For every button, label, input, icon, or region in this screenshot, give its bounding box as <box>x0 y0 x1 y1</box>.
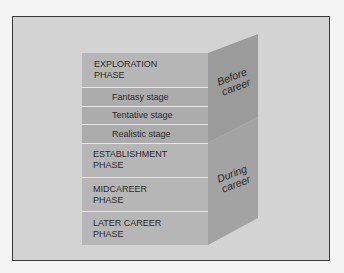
later-career-phase-row: LATER CAREER PHASE <box>82 212 208 245</box>
exploration-phase-row: EXPLORATION PHASE <box>82 53 208 87</box>
establishment-phase-label-line2: PHASE <box>93 160 208 171</box>
career-phases-front-face: EXPLORATION PHASE Fantasy stage Tentativ… <box>82 53 208 245</box>
tentative-stage-row: Tentative stage <box>82 107 208 124</box>
exploration-phase-label-line2: PHASE <box>94 70 208 81</box>
establishment-phase-row: ESTABLISHMENT PHASE <box>82 144 208 177</box>
exploration-phase-label-line1: EXPLORATION <box>94 59 208 70</box>
later-career-phase-label-line2: PHASE <box>93 229 208 240</box>
later-career-phase-label-line1: LATER CAREER <box>93 218 208 229</box>
midcareer-phase-row: MIDCAREER PHASE <box>82 178 208 211</box>
realistic-stage-row: Realistic stage <box>82 125 208 143</box>
realistic-stage-label: Realistic stage <box>112 129 208 140</box>
fantasy-stage-row: Fantasy stage <box>82 88 208 106</box>
midcareer-phase-label-line2: PHASE <box>93 195 208 206</box>
midcareer-phase-label-line1: MIDCAREER <box>93 184 208 195</box>
establishment-phase-label-line1: ESTABLISHMENT <box>93 149 208 160</box>
fantasy-stage-label: Fantasy stage <box>112 92 208 103</box>
tentative-stage-label: Tentative stage <box>112 110 208 121</box>
